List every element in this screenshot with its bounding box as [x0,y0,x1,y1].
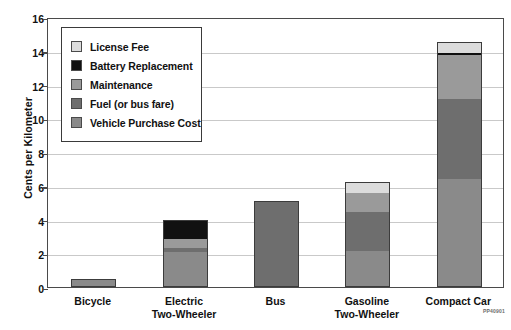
bar-segment-vehicle-purchase-cost[interactable] [164,252,207,286]
bar-bus[interactable] [254,201,299,287]
legend-swatch-icon [71,117,82,128]
x-axis-label-compact-car: Compact Car [426,295,491,308]
chart-container: Cents per Kilometer 0246810121416 Bicycl… [0,0,511,330]
legend-item-label: Fuel (or bus fare) [90,98,174,110]
legend-item-battery-replacement[interactable]: Battery Replacement [71,56,187,75]
legend-swatch-icon [71,98,82,109]
x-axis-label-line: Electric [152,295,217,308]
legend-item-label: Vehicle Purchase Cost [90,117,201,129]
bar-segment-vehicle-purchase-cost[interactable] [72,280,115,286]
x-axis-label-bus: Bus [266,295,286,308]
y-axis-tick-label: 4 [2,216,44,228]
bar-segment-fuel-or-bus-fare-[interactable] [346,212,389,252]
bar-segment-vehicle-purchase-cost[interactable] [346,251,389,286]
x-axis-label-bicycle: Bicycle [74,295,111,308]
bar-segment-maintenance[interactable] [346,193,389,211]
legend-item-fuel-or-bus-fare-[interactable]: Fuel (or bus fare) [71,94,187,113]
x-axis-label-electric-two-wheeler: ElectricTwo-Wheeler [152,295,217,321]
bar-segment-fuel-or-bus-fare-[interactable] [438,99,481,179]
x-axis-label-line: Bus [266,295,286,308]
legend-item-label: Maintenance [90,79,153,91]
bar-segment-fuel-or-bus-fare-[interactable] [255,202,298,286]
y-axis-tick-label: 10 [2,114,44,126]
x-axis-label-line: Two-Wheeler [152,308,217,321]
y-axis-tick-label: 12 [2,81,44,93]
bar-compact-car[interactable] [437,42,482,287]
bar-bicycle[interactable] [71,279,116,287]
y-axis-tick-label: 6 [2,182,44,194]
y-axis-tick-label: 14 [2,47,44,59]
legend-item-vehicle-purchase-cost[interactable]: Vehicle Purchase Cost [71,113,187,132]
y-axis-tick-label: 8 [2,148,44,160]
bar-segment-license-fee[interactable] [438,43,481,52]
x-axis-label-line: Gasoline [335,295,400,308]
x-axis-label-line: Two-Wheeler [335,308,400,321]
y-axis-tick-label: 0 [2,283,44,295]
chart-legend: License FeeBattery ReplacementMaintenanc… [61,27,202,142]
legend-swatch-icon [71,41,82,52]
legend-item-maintenance[interactable]: Maintenance [71,75,187,94]
bar-segment-maintenance[interactable] [438,55,481,99]
x-axis-label-line: Compact Car [426,295,491,308]
bar-electric-two-wheeler[interactable] [163,220,208,288]
legend-swatch-icon [71,79,82,90]
bar-gasoline-two-wheeler[interactable] [345,182,390,287]
y-axis-tick-mark [43,289,48,290]
bar-segment-maintenance[interactable] [164,239,207,248]
source-code-label: PP40901 [483,308,505,314]
bar-segment-battery-replacement[interactable] [164,221,207,240]
x-axis-label-gasoline-two-wheeler: GasolineTwo-Wheeler [335,295,400,321]
bar-segment-license-fee[interactable] [346,183,389,193]
y-axis-tick-label: 2 [2,249,44,261]
legend-swatch-icon [71,60,82,71]
x-axis-label-line: Bicycle [74,295,111,308]
legend-item-label: Battery Replacement [90,60,193,72]
legend-item-license-fee[interactable]: License Fee [71,37,187,56]
bar-segment-vehicle-purchase-cost[interactable] [438,179,481,286]
legend-item-label: License Fee [90,41,149,53]
y-axis-tick-label: 16 [2,13,44,25]
